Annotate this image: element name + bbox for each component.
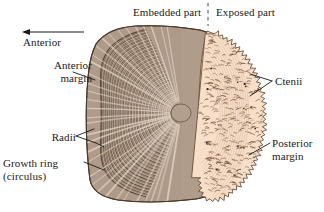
scale-focus — [171, 104, 191, 122]
scale-anatomy-figure: Embedded part Exposed part Anterior Ante… — [0, 0, 324, 212]
label-ctenii: Ctenii — [275, 75, 303, 88]
anterior-arrow — [22, 29, 84, 35]
label-embedded-part: Embedded part — [133, 6, 201, 19]
label-radii: Radii — [18, 131, 76, 144]
label-anterior: Anterior — [23, 36, 61, 49]
exposed-part-shape — [192, 25, 268, 201]
label-growth-ring: Growth ring (circulus) — [3, 157, 87, 182]
label-posterior-margin: Posterior margin — [272, 137, 324, 162]
label-exposed-part: Exposed part — [216, 6, 275, 19]
label-anterior-margin: Anterior margin — [6, 59, 92, 84]
